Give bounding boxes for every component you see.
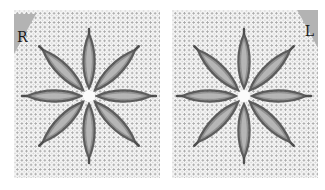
left-handed-sample-panel: L: [172, 10, 318, 178]
right-handed-sample-panel: R: [14, 10, 160, 178]
lazy-daisy-motif: [172, 10, 318, 178]
lazy-daisy-motif: [14, 10, 160, 178]
